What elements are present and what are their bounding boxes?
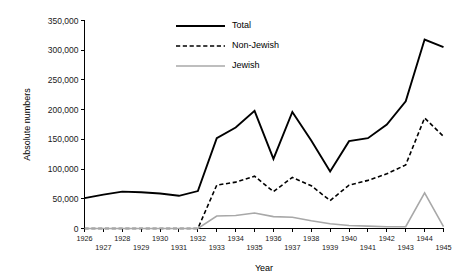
legend-label-total: Total	[232, 20, 251, 30]
x-tick-label: 1942	[379, 234, 395, 243]
x-tick-label: 1936	[265, 234, 281, 243]
series-line-total	[85, 40, 444, 199]
x-tick-label: 1928	[114, 234, 130, 243]
x-tick-label: 1934	[228, 234, 244, 243]
x-tick-label: 1937	[284, 243, 300, 252]
x-tick-label: 1935	[246, 243, 262, 252]
x-tick-label: 1927	[95, 243, 111, 252]
chart-legend: TotalNon-JewishJewish	[176, 20, 279, 70]
x-axis-title: Year	[255, 263, 273, 273]
x-tick-label: 1929	[133, 243, 149, 252]
x-tick-label: 1926	[76, 234, 92, 243]
x-tick-label: 1933	[209, 243, 225, 252]
x-tick-label: 1941	[360, 243, 376, 252]
y-tick-label: 0	[74, 224, 79, 234]
x-tick-label: 1939	[322, 243, 338, 252]
y-axis-title: Absolute numbers	[22, 88, 32, 161]
x-tick-label: 1943	[398, 243, 414, 252]
line-chart: 050,000100,000150,000200,000250,000300,0…	[0, 0, 463, 277]
x-tick-label: 1938	[303, 234, 319, 243]
x-tick-label: 1930	[152, 234, 168, 243]
x-tick-label: 1932	[190, 234, 206, 243]
x-tick-label: 1944	[416, 234, 432, 243]
y-tick-label: 100,000	[48, 164, 79, 174]
legend-label-non-jewish: Non-Jewish	[232, 40, 279, 50]
chart-figure: 050,000100,000150,000200,000250,000300,0…	[0, 0, 463, 277]
x-axis-ticks: 1926192719281929193019311932193319341935…	[76, 229, 451, 253]
data-series-group	[85, 40, 444, 229]
x-tick-label: 1940	[341, 234, 357, 243]
x-tick-label: 1931	[171, 243, 187, 252]
y-tick-label: 350,000	[48, 16, 79, 26]
series-line-jewish	[85, 193, 444, 229]
y-tick-label: 300,000	[48, 45, 79, 55]
y-tick-label: 250,000	[48, 75, 79, 85]
y-tick-label: 50,000	[53, 194, 79, 204]
x-tick-label: 1945	[435, 243, 451, 252]
y-axis-ticks: 050,000100,000150,000200,000250,000300,0…	[48, 16, 85, 234]
y-tick-label: 150,000	[48, 134, 79, 144]
y-tick-label: 200,000	[48, 105, 79, 115]
legend-label-jewish: Jewish	[232, 60, 260, 70]
